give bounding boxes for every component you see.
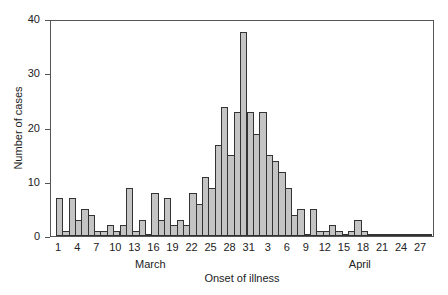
x-tick-label: 10 bbox=[109, 241, 121, 253]
chart-plot-area bbox=[50, 20, 434, 237]
y-tick bbox=[45, 237, 50, 238]
bar bbox=[126, 188, 133, 236]
x-tick-label: 13 bbox=[128, 241, 140, 253]
y-tick bbox=[45, 183, 50, 184]
x-tick-label: 21 bbox=[376, 241, 388, 253]
y-tick-label: 10 bbox=[10, 176, 40, 188]
x-tick-label: 1 bbox=[55, 241, 61, 253]
y-tick-label: 0 bbox=[10, 230, 40, 242]
x-tick-label: 19 bbox=[166, 241, 178, 253]
x-tick-label: 16 bbox=[147, 241, 159, 253]
x-axis-title: Onset of illness bbox=[204, 272, 279, 284]
x-tick-label: 9 bbox=[303, 241, 309, 253]
x-tick-label: 24 bbox=[395, 241, 407, 253]
x-tick-label: 15 bbox=[338, 241, 350, 253]
x-tick-label: 18 bbox=[357, 241, 369, 253]
x-tick-label: 28 bbox=[224, 241, 236, 253]
month-label: April bbox=[349, 258, 371, 270]
x-tick-label: 4 bbox=[74, 241, 80, 253]
month-label: March bbox=[135, 258, 166, 270]
x-tick-label: 6 bbox=[284, 241, 290, 253]
bar bbox=[424, 234, 431, 236]
bar bbox=[297, 209, 304, 236]
y-tick-label: 40 bbox=[10, 13, 40, 25]
y-tick-label: 20 bbox=[10, 122, 40, 134]
x-tick-label: 27 bbox=[414, 241, 426, 253]
x-tick-label: 25 bbox=[204, 241, 216, 253]
y-tick bbox=[45, 20, 50, 21]
y-tick-label: 30 bbox=[10, 67, 40, 79]
x-tick-label: 12 bbox=[319, 241, 331, 253]
x-tick-label: 31 bbox=[243, 241, 255, 253]
y-tick bbox=[45, 129, 50, 130]
x-tick-label: 7 bbox=[93, 241, 99, 253]
x-tick-label: 3 bbox=[265, 241, 271, 253]
x-tick-label: 22 bbox=[185, 241, 197, 253]
y-tick bbox=[45, 74, 50, 75]
